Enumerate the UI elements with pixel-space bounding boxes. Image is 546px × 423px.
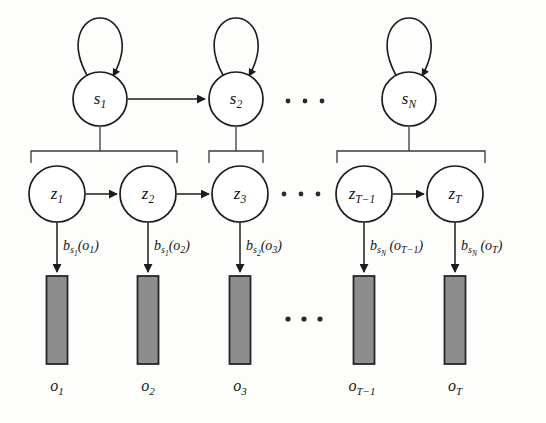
emission-label-2: bs1(o2) — [154, 238, 190, 258]
state-row-ellipsis — [286, 99, 325, 104]
observation-label-group: o1 o2 o3 oT−1 oT — [50, 377, 463, 397]
ellipsis-dot — [303, 99, 308, 104]
emission-label-3: bs2(o3) — [246, 238, 282, 258]
observation-label-o1: o1 — [50, 377, 64, 397]
observation-bar-oT-minus-1[interactable] — [354, 276, 375, 364]
observation-bar-o2[interactable] — [138, 276, 159, 364]
ellipsis-dot — [285, 316, 290, 321]
substate-row-ellipsis — [282, 192, 321, 197]
observation-bar-group — [47, 276, 466, 364]
ellipsis-dot — [301, 316, 306, 321]
state-node-group: s1 s2 sN — [73, 72, 436, 126]
observation-row-ellipsis — [285, 316, 322, 321]
observation-label-o2: o2 — [141, 377, 155, 397]
observation-bar-oT[interactable] — [445, 276, 466, 364]
brace-s1 — [31, 127, 177, 163]
self-loop-group — [78, 18, 431, 77]
ellipsis-dot — [286, 99, 291, 104]
emission-label-5: bsN (oT) — [461, 238, 503, 258]
hmm-diagram: s1 s2 sN — [0, 0, 546, 423]
emission-label-1: bs1(o1) — [63, 238, 99, 258]
self-loop-s1 — [78, 18, 122, 77]
self-loop-sN — [387, 18, 431, 77]
ellipsis-dot — [317, 316, 322, 321]
brace-group — [31, 127, 485, 163]
observation-label-o3: o3 — [233, 377, 247, 397]
observation-label-oT: oT — [448, 377, 463, 397]
emission-label-4: bsN (oT−1) — [370, 238, 423, 258]
observation-bar-o3[interactable] — [230, 276, 251, 364]
ellipsis-dot — [299, 192, 304, 197]
self-loop-s2 — [214, 18, 258, 77]
observation-bar-o1[interactable] — [47, 276, 68, 364]
brace-sN — [337, 127, 485, 163]
diagram-canvas: s1 s2 sN — [0, 0, 546, 423]
ellipsis-dot — [316, 192, 321, 197]
observation-label-oT-minus-1: oT−1 — [348, 377, 375, 397]
ellipsis-dot — [282, 192, 287, 197]
emission-label-group: bs1(o1) bs1(o2) bs2(o3) bsN (oT−1) bsN (… — [63, 238, 503, 258]
ellipsis-dot — [320, 99, 325, 104]
brace-s2 — [209, 127, 263, 163]
